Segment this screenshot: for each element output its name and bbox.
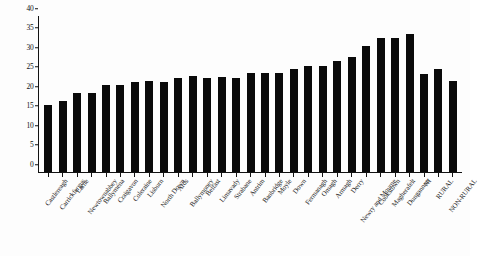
bar-slot <box>316 16 330 172</box>
x-tick <box>99 173 113 177</box>
x-tick <box>287 173 301 177</box>
x-tick-mark <box>293 173 294 177</box>
y-tick: 10 <box>26 122 38 130</box>
bar <box>232 78 240 172</box>
x-tick <box>214 173 228 177</box>
bar <box>333 61 341 172</box>
x-tick-mark <box>77 173 78 177</box>
x-tick <box>417 173 431 177</box>
bar <box>348 57 356 172</box>
bar-slot <box>258 16 272 172</box>
x-label-slot: Cookstown <box>373 178 387 256</box>
bar <box>145 81 153 172</box>
x-tick <box>186 173 200 177</box>
x-tick-mark <box>337 173 338 177</box>
x-label-slot: Castlereagh <box>41 178 55 256</box>
x-tick <box>84 173 98 177</box>
bar <box>203 78 211 172</box>
x-label-slot: Down <box>287 178 301 256</box>
bar <box>420 74 428 172</box>
y-tick: 5 <box>30 141 38 149</box>
y-tick: 20 <box>26 83 38 91</box>
x-tick <box>373 173 387 177</box>
x-label-slot: Strabane <box>229 178 243 256</box>
x-tick-mark <box>250 173 251 177</box>
bar <box>449 81 457 172</box>
bar-slot <box>200 16 214 172</box>
x-label-slot: Banbridge <box>258 178 272 256</box>
x-tick <box>70 173 84 177</box>
bar <box>261 73 269 172</box>
bar-slot <box>287 16 301 172</box>
bar-slot <box>128 16 142 172</box>
x-tick-mark <box>178 173 179 177</box>
x-label-slot: Larne <box>70 178 84 256</box>
x-tick-mark <box>221 173 222 177</box>
x-tick-mark <box>48 173 49 177</box>
bar-slot <box>446 16 460 172</box>
x-axis-labels: CastlereaghCarrickfergusLarneNewtownabbe… <box>38 178 462 256</box>
x-tick-mark <box>279 173 280 177</box>
x-label-slot: Ballymena <box>99 178 113 256</box>
x-label-slot: RURAL <box>431 178 445 256</box>
bar-slot <box>330 16 344 172</box>
bar <box>275 73 283 172</box>
bar-slot <box>214 16 228 172</box>
bar-slot <box>157 16 171 172</box>
bar <box>304 66 312 172</box>
bar <box>160 82 168 172</box>
x-tick <box>301 173 315 177</box>
bar-slot <box>359 16 373 172</box>
x-tick <box>142 173 156 177</box>
y-tick: 0 <box>30 161 38 169</box>
x-label-slot: Derry <box>345 178 359 256</box>
bar-slot <box>373 16 387 172</box>
x-tick-mark <box>163 173 164 177</box>
bar-slot <box>388 16 402 172</box>
x-tick-mark <box>120 173 121 177</box>
bar <box>73 93 81 172</box>
bar-slot <box>99 16 113 172</box>
bar <box>44 105 52 172</box>
x-tick-mark <box>192 173 193 177</box>
bar-slot <box>417 16 431 172</box>
x-tick-mark <box>91 173 92 177</box>
x-tick-mark <box>380 173 381 177</box>
bar-slot <box>243 16 257 172</box>
x-tick-mark <box>452 173 453 177</box>
y-tick: 35 <box>26 24 38 32</box>
x-label-slot: Carrickfergus <box>55 178 69 256</box>
plot-area: 0510152025303540 <box>38 16 462 172</box>
bar-slot <box>431 16 445 172</box>
x-label-slot: Limavady <box>214 178 228 256</box>
bar <box>391 38 399 172</box>
x-tick <box>157 173 171 177</box>
bar <box>377 38 385 172</box>
bar-slot <box>345 16 359 172</box>
y-tick: 30 <box>26 44 38 52</box>
bar <box>290 69 298 172</box>
bar-slot <box>113 16 127 172</box>
x-tick-mark <box>265 173 266 177</box>
bar-slot <box>402 16 416 172</box>
bar <box>362 46 370 172</box>
bar-slot <box>171 16 185 172</box>
x-label-slot: Armagh <box>330 178 344 256</box>
x-tick <box>330 173 344 177</box>
bar-series <box>38 16 462 172</box>
x-tick-mark <box>236 173 237 177</box>
x-tick <box>431 173 445 177</box>
bar <box>189 76 197 172</box>
y-tick-label: 15 <box>26 102 35 110</box>
x-tick-mark <box>438 173 439 177</box>
bar <box>218 77 226 172</box>
x-label-slot: Dungannon <box>402 178 416 256</box>
x-tick <box>359 173 373 177</box>
x-label-slot: Craigavon <box>113 178 127 256</box>
y-tick: 40 <box>26 5 38 13</box>
bar-slot <box>41 16 55 172</box>
bar-slot <box>55 16 69 172</box>
bar-slot <box>186 16 200 172</box>
y-tick: 25 <box>26 63 38 71</box>
